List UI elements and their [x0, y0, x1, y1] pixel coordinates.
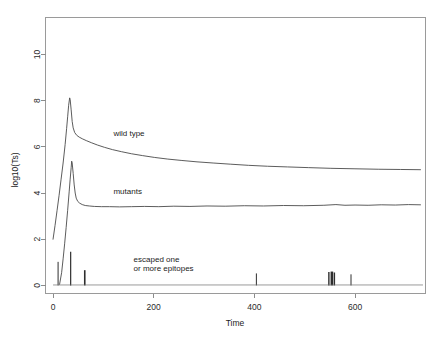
y-axis-tick-label: 10 — [33, 49, 43, 59]
x-axis-tick-label: 400 — [247, 302, 261, 312]
series-label-wild-type: wild type — [112, 129, 145, 138]
chart-svg: 02004006000246810wild typemutantsescaped… — [0, 0, 441, 340]
y-axis-title: log10(Ts) — [10, 152, 20, 187]
chart-figure: 02004006000246810wild typemutantsescaped… — [0, 0, 441, 340]
x-axis-title: Time — [226, 318, 245, 328]
series-curve-wild-type — [53, 98, 420, 239]
y-axis-tick-label: 6 — [33, 144, 43, 149]
escape-label-line2: or more epitopes — [134, 264, 194, 273]
y-axis-tick-label: 0 — [33, 283, 43, 288]
escape-label-line1: escaped one — [134, 255, 180, 264]
series-label-mutants: mutants — [113, 187, 141, 196]
series-curve-mutants — [60, 161, 421, 284]
y-axis-tick-label: 2 — [33, 237, 43, 242]
x-axis-tick-label: 0 — [51, 302, 56, 312]
x-axis-tick-label: 600 — [348, 302, 362, 312]
plot-area-border — [46, 18, 426, 294]
y-axis-tick-label: 4 — [33, 190, 43, 195]
x-axis-tick-label: 200 — [147, 302, 161, 312]
y-axis-tick-label: 8 — [33, 98, 43, 103]
